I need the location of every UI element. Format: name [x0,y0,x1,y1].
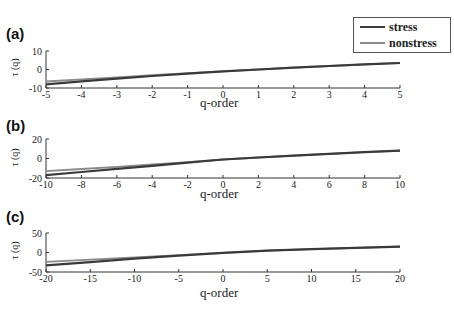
x-tick-label: -8 [77,179,85,190]
y-tick-label: -50 [29,267,42,278]
x-tick-label: 15 [351,273,361,284]
y-tick-label: 0 [37,64,42,75]
y-tick-label: 20 [32,134,42,145]
x-tick-label: 5 [398,89,403,100]
x-axis-title-c: q-order [200,285,238,301]
x-tick-label: 0 [221,273,226,284]
x-tick-label: -15 [84,273,97,284]
stress-series-line [46,247,400,266]
x-tick-label: 4 [291,179,296,190]
x-tick-label: -3 [113,89,121,100]
x-tick-label: 6 [327,179,332,190]
plot-panel-2: -10-8-6-4-20246810-20020 [29,134,405,191]
y-axis-title-c: τ (q) [9,231,20,271]
x-tick-label: -10 [128,273,141,284]
x-tick-label: -6 [113,179,121,190]
y-tick-label: -20 [29,173,42,184]
y-tick-label: -10 [29,83,42,94]
x-tick-label: 8 [362,179,367,190]
x-tick-label: 1 [256,89,261,100]
x-tick-label: -5 [175,273,183,284]
y-tick-label: 50 [32,228,42,239]
y-tick-label: 0 [37,153,42,164]
x-tick-label: -1 [183,89,191,100]
x-tick-label: -4 [77,89,85,100]
x-axis-title-a: q-order [200,95,238,111]
x-tick-label: 5 [265,273,270,284]
y-axis-title-b: τ (q) [9,138,20,178]
y-tick-label: 0 [37,247,42,258]
x-tick-label: 20 [395,273,405,284]
y-tick-label: 10 [32,46,42,57]
plot-panel-1: -5-4-3-2-1012345-10010 [29,46,403,101]
x-tick-label: 3 [327,89,332,100]
stress-series-line [46,151,400,175]
x-tick-label: 10 [395,179,405,190]
x-tick-label: 4 [362,89,367,100]
stress-series-line [46,63,400,84]
y-axis-title-a: τ (q) [9,48,20,88]
x-tick-label: 10 [307,273,317,284]
x-tick-label: -5 [42,89,50,100]
x-tick-label: -4 [148,179,156,190]
plot-panel-3: -20-15-10-505101520-50050 [29,228,405,285]
x-tick-label: 2 [256,179,261,190]
x-tick-label: -2 [183,179,191,190]
chart-canvas: -5-4-3-2-1012345-10010-10-8-6-4-20246810… [0,0,454,315]
x-tick-label: -2 [148,89,156,100]
x-axis-title-b: q-order [200,186,238,202]
x-tick-label: 2 [291,89,296,100]
